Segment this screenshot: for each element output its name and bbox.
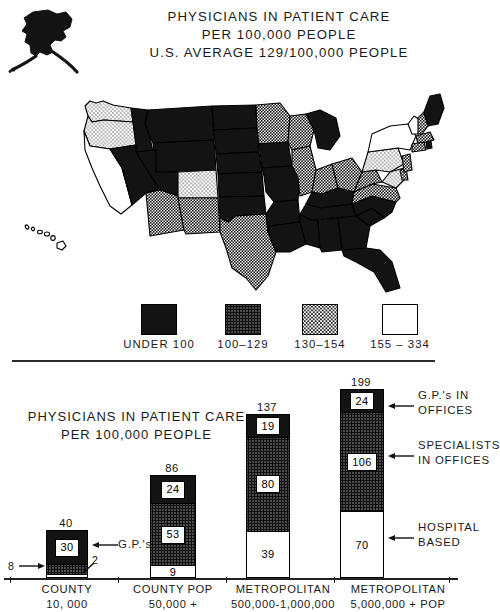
state-washington xyxy=(85,101,133,122)
segment-value-gp-3: 19 xyxy=(256,417,279,435)
segment-gp-offices-4: 24 xyxy=(341,390,383,412)
state-wyoming xyxy=(153,140,216,172)
segment-value-gp-4: 24 xyxy=(350,392,373,410)
bar-total-3: 137 xyxy=(243,401,291,413)
state-minnesota xyxy=(256,103,290,144)
x-axis-label-2: COUNTY POP 50,000 + xyxy=(116,582,230,612)
annotation-gp-offices-line-1: G.P.'s IN xyxy=(418,388,473,403)
segment-hospital-1 xyxy=(47,574,87,577)
arrow-icon xyxy=(82,562,96,575)
state-northdakota xyxy=(212,105,257,130)
legend-swatch-100-129 xyxy=(225,304,261,335)
segment-value-gp-2: 24 xyxy=(161,481,184,499)
segment-value-hosp-4: 70 xyxy=(355,539,368,551)
segment-hospital-3: 39 xyxy=(247,531,289,577)
annotation-gps-bar1: G.P.'s xyxy=(118,537,152,552)
annotation-hospital-line-1: HOSPITAL xyxy=(418,520,480,535)
x-axis-label-1-line-1: COUNTY xyxy=(16,582,118,597)
segment-specialists-4: 106 xyxy=(341,412,383,511)
state-rhodeisland xyxy=(426,141,432,149)
segment-specialists-3: 80 xyxy=(247,437,289,531)
state-southdakota xyxy=(214,128,259,154)
segment-hospital-2: 9 xyxy=(151,565,195,577)
bar1-hatch-value: 8 xyxy=(8,560,14,572)
arrow-icon xyxy=(388,452,414,460)
chart-title-line-1: PHYSICIANS IN PATIENT CARE xyxy=(14,408,259,426)
panel-divider xyxy=(12,360,435,362)
x-axis-label-3: METROPOLITAN 500,000-1,000,000 xyxy=(222,582,344,612)
x-axis-label-2-line-1: COUNTY POP xyxy=(116,582,230,597)
x-axis-label-4-line-2: 5,000,000 + POP xyxy=(336,597,460,612)
x-axis-label-3-line-1: METROPOLITAN xyxy=(222,582,344,597)
chart-baseline xyxy=(4,578,458,580)
state-alaska xyxy=(9,10,77,73)
x-axis-label-1: COUNTY 10, 000 xyxy=(16,582,118,612)
map-legend: UNDER 100 100–129 130–154 155 – 334 xyxy=(0,304,467,352)
bar-chart-panel: PHYSICIANS IN PATIENT CARE PER 100,000 P… xyxy=(0,372,467,609)
legend-swatch-130-154 xyxy=(302,304,338,335)
segment-value-gp-1: 30 xyxy=(55,539,78,557)
state-arizona xyxy=(146,190,184,236)
segment-specialists-1 xyxy=(47,564,87,574)
annotation-gp-offices-line-2: OFFICES xyxy=(418,403,473,418)
chart-title: PHYSICIANS IN PATIENT CARE PER 100,000 P… xyxy=(14,408,259,445)
state-florida xyxy=(342,248,400,292)
table-row[interactable]: 19 80 39 xyxy=(246,414,290,578)
legend-swatch-155-334 xyxy=(382,304,418,335)
segment-value-spec-2: 53 xyxy=(161,526,184,544)
table-row[interactable]: 24 106 70 xyxy=(340,389,384,578)
state-newmexico xyxy=(178,198,220,234)
segment-value-spec-3: 80 xyxy=(256,475,279,493)
annotation-hospital-based: HOSPITAL BASED xyxy=(418,520,480,550)
annotation-specialists-line-1: SPECIALISTS xyxy=(418,438,500,453)
state-nebraska xyxy=(216,152,262,174)
bar-total-2: 86 xyxy=(148,462,196,474)
bar-total-1: 40 xyxy=(42,517,90,529)
arrow-icon xyxy=(19,562,45,570)
legend-item-155-334: 155 – 334 xyxy=(345,304,455,350)
x-axis-label-3-line-2: 500,000-1,000,000 xyxy=(222,597,344,612)
annotation-hospital-line-2: BASED xyxy=(418,535,480,550)
state-iowa xyxy=(259,142,292,168)
bar-total-4: 199 xyxy=(337,376,385,388)
segment-value-hosp-3: 39 xyxy=(261,548,274,560)
chart-title-line-2: PER 100,000 PEOPLE xyxy=(14,426,259,444)
x-axis-label-1-line-2: 10, 000 xyxy=(16,597,118,612)
state-kansas xyxy=(218,172,264,197)
annotation-gp-offices: G.P.'s IN OFFICES xyxy=(418,388,473,418)
segment-specialists-2: 53 xyxy=(151,503,195,565)
state-hawaii xyxy=(25,224,66,250)
state-connecticut xyxy=(412,142,426,152)
x-axis-label-2-line-2: 50,000 + xyxy=(116,597,230,612)
table-row[interactable]: 24 53 9 xyxy=(150,475,196,578)
segment-value-hosp-2: 9 xyxy=(170,566,177,578)
segment-hospital-4: 70 xyxy=(341,511,383,577)
annotation-specialists-line-2: IN OFFICES xyxy=(418,453,500,468)
x-axis-label-4-line-1: METROPOLITAN xyxy=(336,582,460,597)
state-louisiana xyxy=(268,222,306,252)
state-colorado xyxy=(178,170,218,198)
state-newyork xyxy=(368,124,416,152)
x-axis-label-4: METROPOLITAN 5,000,000 + POP xyxy=(336,582,460,612)
segment-gp-offices-1: 30 xyxy=(47,531,87,564)
arrow-icon xyxy=(388,534,414,542)
state-maine xyxy=(424,94,444,126)
us-choropleth-map xyxy=(0,0,467,300)
map-panel: PHYSICIANS IN PATIENT CARE PER 100,000 P… xyxy=(0,0,467,300)
arrow-icon xyxy=(388,402,414,410)
state-newjersey xyxy=(402,154,412,172)
annotation-specialists-offices: SPECIALISTS IN OFFICES xyxy=(418,438,500,468)
axis-tick xyxy=(10,577,11,583)
arrow-icon xyxy=(92,541,118,549)
segment-gp-offices-3: 19 xyxy=(247,415,289,437)
segment-gp-offices-2: 24 xyxy=(151,476,195,503)
legend-swatch-under-100 xyxy=(141,304,177,335)
segment-value-spec-4: 106 xyxy=(347,453,377,471)
state-montana xyxy=(145,106,214,143)
legend-label-155-334: 155 – 334 xyxy=(345,338,455,350)
